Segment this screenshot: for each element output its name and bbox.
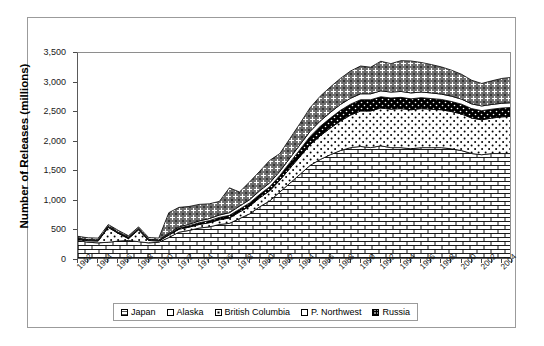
y-axis-labels: 05001,0001,5002,0002,5003,0003,500 — [0, 52, 74, 259]
legend-swatch-brick-icon — [121, 309, 128, 316]
y-axis-tick-label: 500 — [51, 224, 66, 234]
legend-item-russia[interactable]: Russia — [372, 307, 410, 317]
plot-svg — [78, 53, 511, 259]
legend-label: Russia — [382, 307, 410, 317]
plot-area — [77, 52, 511, 259]
x-axis: 1962196419661968197019721974197619781980… — [77, 259, 511, 305]
legend-swatch-cross-hatch-icon — [372, 309, 379, 316]
y-axis-tick-label: 0 — [61, 254, 66, 264]
legend-label: Alaska — [177, 307, 204, 317]
y-axis-tick-label: 2,000 — [43, 136, 66, 146]
legend-swatch-thin-line-icon — [301, 309, 308, 316]
legend-item-alaska[interactable]: Alaska — [167, 307, 204, 317]
y-axis-tick-label: 1,000 — [43, 195, 66, 205]
legend-item-japan[interactable]: Japan — [121, 307, 156, 317]
y-axis-tick-label: 3,000 — [43, 77, 66, 87]
y-axis-tick-label: 2,500 — [43, 106, 66, 116]
y-axis-tick-label: 1,500 — [43, 165, 66, 175]
legend-label: P. Northwest — [311, 307, 361, 317]
legend-label: Japan — [131, 307, 156, 317]
legend-item-p-northwest[interactable]: P. Northwest — [301, 307, 361, 317]
legend-item-british-columbia[interactable]: British Columbia — [215, 307, 291, 317]
stacked-area-chart: Number of Releases (millions) 05001,0001… — [0, 0, 544, 346]
chart-legend: JapanAlaskaBritish ColumbiaP. NorthwestR… — [113, 303, 418, 321]
legend-swatch-light-dots-icon — [167, 309, 174, 316]
y-axis-tick-label: 3,500 — [43, 47, 66, 57]
legend-label: British Columbia — [225, 307, 291, 317]
legend-swatch-solid-black-icon — [215, 309, 222, 316]
